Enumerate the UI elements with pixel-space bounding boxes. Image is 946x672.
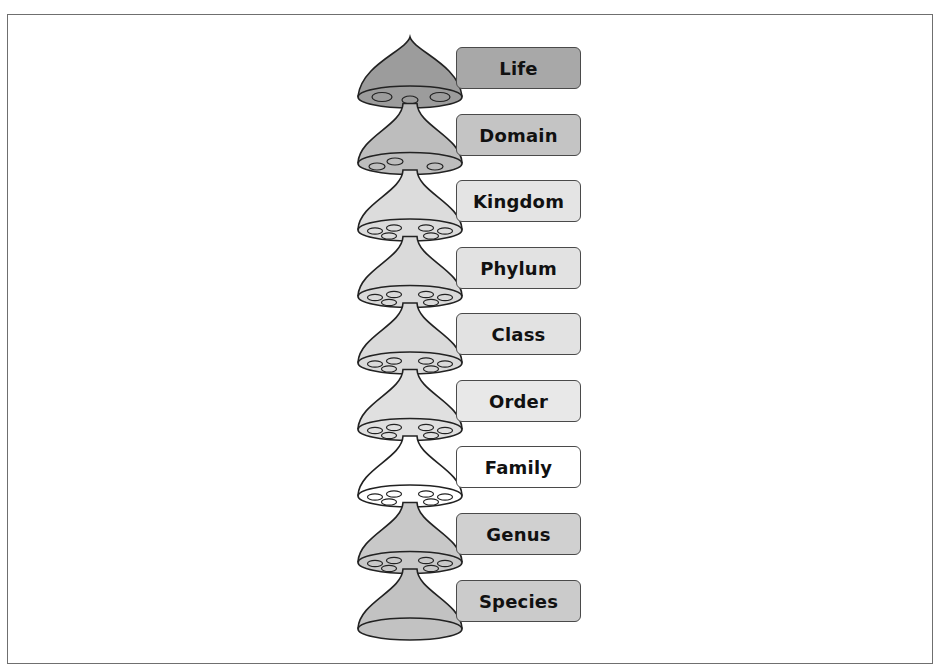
label-box-class: Class <box>456 313 581 355</box>
pore-icon <box>382 499 397 505</box>
label-box-order: Order <box>456 380 581 422</box>
pore-icon <box>438 294 453 300</box>
pore-icon <box>438 560 453 566</box>
bell-base-icon <box>358 618 462 640</box>
pore-icon <box>419 491 434 497</box>
pore-icon <box>424 499 439 505</box>
pore-icon <box>438 361 453 367</box>
pore-icon <box>427 163 443 170</box>
pore-icon <box>424 366 439 372</box>
pore-icon <box>438 427 453 433</box>
pore-icon <box>369 163 385 170</box>
pore-icon <box>424 565 439 571</box>
pore-icon <box>382 565 397 571</box>
pore-icon <box>419 424 434 430</box>
pore-icon <box>387 225 402 231</box>
pore-icon <box>424 432 439 438</box>
pore-icon <box>387 358 402 364</box>
pore-icon <box>368 294 383 300</box>
pore-icon <box>419 557 434 563</box>
pore-icon <box>368 560 383 566</box>
label-box-domain: Domain <box>456 114 581 156</box>
label-box-family: Family <box>456 446 581 488</box>
pore-icon <box>368 494 383 500</box>
pore-icon <box>438 494 453 500</box>
pore-icon <box>424 299 439 305</box>
pore-icon <box>382 366 397 372</box>
pore-icon <box>419 225 434 231</box>
label-box-kingdom: Kingdom <box>456 180 581 222</box>
label-box-life: Life <box>456 47 581 89</box>
pore-icon <box>368 427 383 433</box>
pore-icon <box>419 358 434 364</box>
label-box-species: Species <box>456 580 581 622</box>
pore-icon <box>368 228 383 234</box>
label-box-phylum: Phylum <box>456 247 581 289</box>
pore-icon <box>382 432 397 438</box>
pore-icon <box>382 299 397 305</box>
pore-icon <box>372 93 392 102</box>
pore-icon <box>424 233 439 239</box>
pore-icon <box>419 291 434 297</box>
pore-icon <box>387 557 402 563</box>
pore-icon <box>438 228 453 234</box>
pore-icon <box>387 491 402 497</box>
pore-icon <box>382 233 397 239</box>
pore-icon <box>368 361 383 367</box>
pore-icon <box>387 158 403 165</box>
pore-icon <box>387 424 402 430</box>
pore-icon <box>430 93 450 102</box>
label-box-genus: Genus <box>456 513 581 555</box>
pore-icon <box>387 291 402 297</box>
